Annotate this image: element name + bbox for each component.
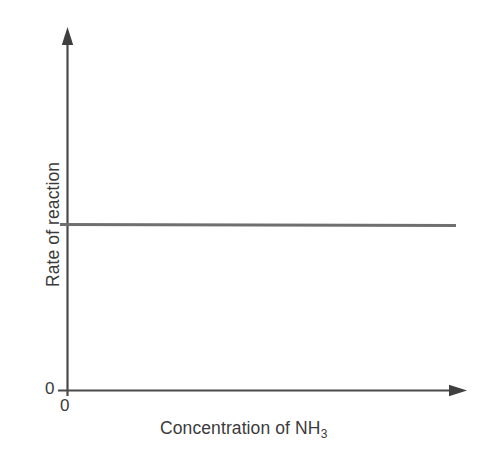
x-axis-title-text: Concentration of NH <box>160 418 320 438</box>
arrow-right-icon <box>449 385 467 397</box>
chart-plot-area <box>0 0 484 468</box>
x-axis-tick-label-0: 0 <box>60 396 69 416</box>
y-axis-tick-label-0: 0 <box>45 379 54 399</box>
series-rate-of-reaction <box>60 225 456 226</box>
x-axis-title: Concentration of NH3 <box>160 418 327 439</box>
x-axis-title-subscript: 3 <box>321 427 328 441</box>
chart-figure: Rate of reaction Concentration of NH3 0 … <box>0 0 484 468</box>
arrow-up-icon <box>62 27 73 45</box>
y-axis-title: Rate of reaction <box>43 162 64 287</box>
